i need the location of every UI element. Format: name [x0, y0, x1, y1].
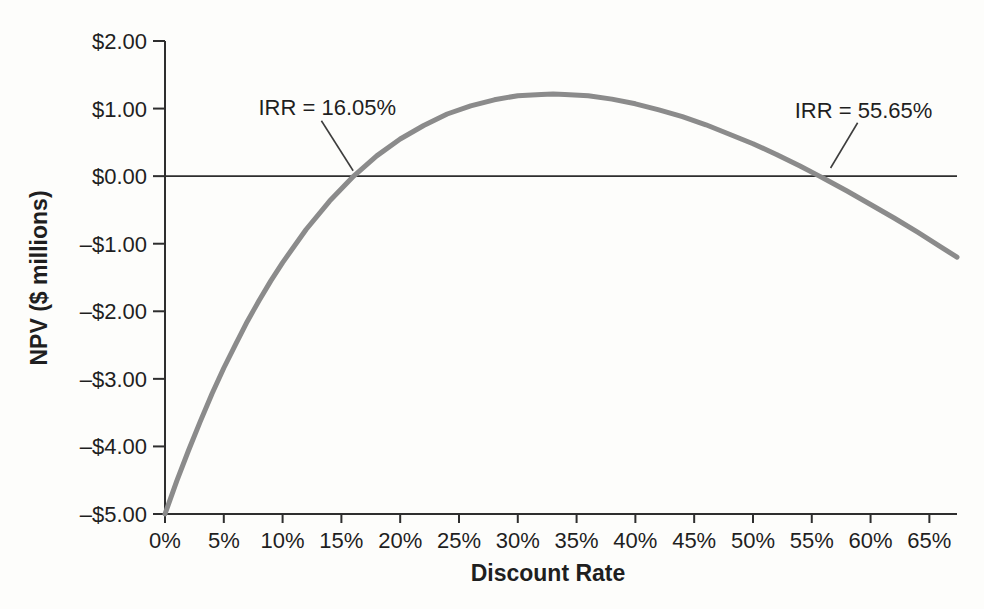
x-tick-label: 50%: [731, 528, 775, 553]
irr-leader-line: [831, 123, 858, 168]
y-tick-label: –$2.00: [80, 299, 147, 324]
x-tick-label: 0%: [149, 528, 181, 553]
y-tick-label: –$1.00: [80, 232, 147, 257]
x-tick-label: 35%: [555, 528, 599, 553]
y-tick-label: $1.00: [92, 97, 147, 122]
y-tick-label: –$4.00: [80, 434, 147, 459]
y-tick-label: –$3.00: [80, 367, 147, 392]
x-tick-label: 25%: [437, 528, 481, 553]
x-tick-label: 45%: [672, 528, 716, 553]
y-axis-title: NPV ($ millions): [26, 190, 52, 365]
x-axis-title: Discount Rate: [471, 560, 626, 586]
npv-profile-chart: $2.00$1.00$0.00–$1.00–$2.00–$3.00–$4.00–…: [0, 0, 984, 609]
irr-annotation: IRR = 55.65%: [795, 98, 933, 123]
y-tick-label: –$5.00: [80, 502, 147, 527]
x-tick-label: 20%: [378, 528, 422, 553]
y-tick-label: $2.00: [92, 29, 147, 54]
x-tick-label: 60%: [849, 528, 893, 553]
figure-page: $2.00$1.00$0.00–$1.00–$2.00–$3.00–$4.00–…: [0, 0, 984, 609]
irr-leader-line: [321, 121, 353, 171]
irr-annotation: IRR = 16.05%: [258, 95, 396, 120]
npv-curve: [165, 94, 957, 514]
x-tick-label: 40%: [613, 528, 657, 553]
x-tick-label: 65%: [907, 528, 951, 553]
y-tick-label: $0.00: [92, 164, 147, 189]
x-tick-label: 30%: [496, 528, 540, 553]
x-tick-label: 55%: [790, 528, 834, 553]
x-tick-label: 15%: [319, 528, 363, 553]
x-tick-label: 10%: [261, 528, 305, 553]
chart-generated-layer: $2.00$1.00$0.00–$1.00–$2.00–$3.00–$4.00–…: [80, 29, 957, 553]
x-tick-label: 5%: [208, 528, 240, 553]
